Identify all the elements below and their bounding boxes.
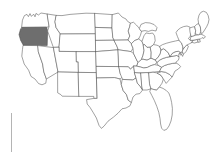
state-new-mexico[interactable] [78, 72, 96, 98]
us-states-map [0, 0, 216, 154]
state-arizona[interactable] [58, 72, 79, 96]
state-oklahoma[interactable] [96, 66, 122, 79]
state-wyoming[interactable] [59, 34, 96, 52]
state-south-dakota[interactable] [95, 27, 114, 40]
us-map-container [0, 0, 216, 154]
states-layer [19, 11, 209, 130]
state-north-dakota[interactable] [95, 13, 112, 28]
state-montana[interactable] [55, 13, 96, 34]
state-minnesota[interactable] [112, 13, 131, 40]
state-oregon[interactable] [19, 27, 48, 45]
state-florida[interactable] [150, 87, 172, 130]
state-colorado[interactable] [76, 52, 96, 73]
state-washington[interactable] [22, 13, 49, 27]
state-kansas[interactable] [96, 50, 119, 67]
left-edge-rule [11, 113, 12, 152]
